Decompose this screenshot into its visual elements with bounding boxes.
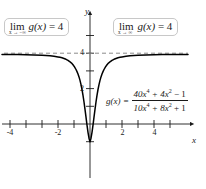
- x-tick-label-minus4: -4: [4, 128, 16, 137]
- x-tick-label-4: 4: [150, 128, 159, 137]
- limit-operator-right: lim x → ∞: [119, 21, 135, 32]
- x-tick-label-2: 2: [118, 128, 127, 137]
- numerator-term-3: − 1: [172, 89, 186, 99]
- x-axis-label: x: [192, 135, 196, 145]
- function-definition: g(x) = 40x4 + 4x2 − 1 10x4 + 8x2 + 1: [106, 88, 188, 113]
- limit-subscript-right: x → ∞: [118, 30, 132, 35]
- denominator-term-2: + 8x: [150, 103, 169, 113]
- y-tick-label-2: 2: [75, 84, 84, 93]
- limit-function-right: g(x): [137, 21, 155, 32]
- denominator-term-3: + 1: [172, 103, 186, 113]
- limit-value-right: 4: [167, 20, 173, 32]
- numerator-term-2: + 4x: [150, 89, 169, 99]
- function-fraction: 40x4 + 4x2 − 1 10x4 + 8x2 + 1: [132, 88, 188, 113]
- limit-callout-right: lim x → ∞ g(x) = 4: [113, 18, 178, 36]
- limit-function-left: g(x): [28, 21, 46, 32]
- limit-equals-right: =: [158, 20, 164, 32]
- function-name: g(x): [106, 96, 121, 106]
- denominator-term-1: 10x: [134, 103, 147, 113]
- function-equals: =: [121, 96, 132, 106]
- numerator-term-1: 40x: [134, 89, 147, 99]
- y-axis-label: y: [85, 6, 89, 16]
- fraction-numerator: 40x4 + 4x2 − 1: [132, 88, 188, 100]
- limit-equals-left: =: [49, 20, 55, 32]
- limit-value-left: 4: [58, 20, 64, 32]
- limit-subscript-left: x → −∞: [9, 30, 26, 35]
- y-tick-label-4: 4: [75, 48, 84, 57]
- x-tick-label-minus2: -2: [52, 128, 64, 137]
- limit-operator-left: lim x → −∞: [10, 21, 26, 32]
- fraction-denominator: 10x4 + 8x2 + 1: [132, 100, 188, 113]
- limit-callout-left: lim x → −∞ g(x) = 4: [4, 18, 69, 36]
- graph-figure: y x -4 -2 2 4 2 4 lim x → −∞ g(x) = 4 li…: [0, 0, 206, 189]
